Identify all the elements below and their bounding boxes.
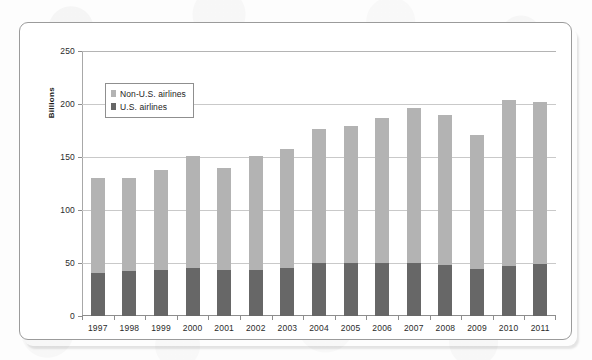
bar-segment-2006-non-us xyxy=(375,118,389,263)
bar-segment-2002-us xyxy=(249,270,263,316)
x-tick-label-1999: 1999 xyxy=(151,323,171,333)
y-tick-label-50: 50 xyxy=(65,258,75,268)
x-tick-mark-1997 xyxy=(82,316,83,320)
x-tick-mark-2002 xyxy=(240,316,241,320)
x-tick-label-2000: 2000 xyxy=(183,323,203,333)
x-tick-mark-2007 xyxy=(398,316,399,320)
x-tick-mark-1998 xyxy=(114,316,115,320)
bar-segment-2003-us xyxy=(280,268,294,316)
x-tick-mark-2003 xyxy=(272,316,273,320)
bar-segment-2011-non-us xyxy=(533,102,547,264)
x-tick-mark-2010 xyxy=(493,316,494,320)
bar-1998 xyxy=(122,178,136,316)
bar-2008 xyxy=(438,115,452,316)
bar-segment-2000-us xyxy=(186,268,200,316)
bar-segment-1997-us xyxy=(91,273,105,316)
x-tick-label-2005: 2005 xyxy=(341,323,361,333)
x-tick-label-2009: 2009 xyxy=(467,323,487,333)
bar-segment-1998-non-us xyxy=(122,178,136,271)
y-tick-mark-100 xyxy=(78,210,82,211)
bar-2002 xyxy=(249,156,263,316)
x-tick-label-2008: 2008 xyxy=(436,323,456,333)
bar-2007 xyxy=(407,108,421,316)
x-tick-mark-2006 xyxy=(366,316,367,320)
bar-segment-2005-non-us xyxy=(344,126,358,263)
bar-2001 xyxy=(217,168,231,316)
x-tick-mark-2009 xyxy=(461,316,462,320)
x-tick-label-2006: 2006 xyxy=(372,323,392,333)
x-tick-label-2001: 2001 xyxy=(214,323,234,333)
bar-segment-2011-us xyxy=(533,264,547,316)
x-tick-mark-2004 xyxy=(303,316,304,320)
x-tick-label-2003: 2003 xyxy=(278,323,298,333)
bar-segment-2000-non-us xyxy=(186,156,200,268)
legend-label-non-us-airlines: Non-U.S. airlines xyxy=(120,89,186,99)
bar-2004 xyxy=(312,129,326,316)
x-tick-label-2011: 2011 xyxy=(531,323,550,333)
bar-segment-2007-us xyxy=(407,263,421,316)
x-tick-mark-2000 xyxy=(177,316,178,320)
bar-1999 xyxy=(154,170,168,316)
x-tick-mark-1999 xyxy=(145,316,146,320)
legend-label-us-airlines: U.S. airlines xyxy=(120,102,167,112)
x-tick-mark-2001 xyxy=(208,316,209,320)
y-axis-title: Billions xyxy=(47,87,56,118)
bar-segment-1999-non-us xyxy=(154,170,168,271)
gridline-250 xyxy=(82,51,556,52)
bar-segment-2009-non-us xyxy=(470,135,484,270)
bar-2010 xyxy=(502,100,516,316)
x-tick-label-2007: 2007 xyxy=(404,323,424,333)
legend-swatch-icon-us xyxy=(111,103,116,110)
x-tick-label-2010: 2010 xyxy=(499,323,519,333)
bar-segment-2003-non-us xyxy=(280,149,294,269)
bar-segment-2007-non-us xyxy=(407,108,421,263)
bar-segment-2008-us xyxy=(438,265,452,316)
bar-2005 xyxy=(344,126,358,316)
bar-segment-2010-non-us xyxy=(502,100,516,266)
y-tick-mark-150 xyxy=(78,157,82,158)
legend-swatch-icon-non-us xyxy=(111,90,116,97)
chart-legend: Non-U.S. airlines U.S. airlines xyxy=(105,83,194,118)
bar-segment-2006-us xyxy=(375,263,389,316)
bar-segment-2010-us xyxy=(502,266,516,316)
bar-2009 xyxy=(470,135,484,316)
bar-segment-2004-us xyxy=(312,263,326,316)
bar-segment-2009-us xyxy=(470,269,484,316)
y-tick-label-0: 0 xyxy=(70,311,75,321)
bar-segment-2008-non-us xyxy=(438,115,452,266)
bar-1997 xyxy=(91,178,105,316)
y-tick-label-100: 100 xyxy=(60,205,75,215)
x-tick-label-2002: 2002 xyxy=(246,323,266,333)
y-tick-label-200: 200 xyxy=(60,99,75,109)
bar-segment-2001-non-us xyxy=(217,168,231,271)
bar-segment-2004-non-us xyxy=(312,129,326,263)
y-axis-line xyxy=(82,51,83,316)
x-tick-label-2004: 2004 xyxy=(309,323,329,333)
x-tick-label-1998: 1998 xyxy=(120,323,140,333)
y-tick-mark-250 xyxy=(78,51,82,52)
legend-item-non-us-airlines: Non-U.S. airlines xyxy=(111,87,186,100)
x-tick-label-1997: 1997 xyxy=(88,323,108,333)
bar-2003 xyxy=(280,149,294,316)
chart-container: Billions 050100150200250 199719981999200… xyxy=(19,22,572,340)
bar-segment-1998-us xyxy=(122,271,136,316)
x-tick-mark-2005 xyxy=(335,316,336,320)
x-tick-mark-2008 xyxy=(430,316,431,320)
bar-segment-1997-non-us xyxy=(91,178,105,272)
bar-segment-2001-us xyxy=(217,270,231,316)
y-tick-mark-50 xyxy=(78,263,82,264)
bar-2000 xyxy=(186,156,200,316)
y-tick-label-250: 250 xyxy=(60,46,75,56)
bar-2006 xyxy=(375,118,389,316)
bar-segment-2002-non-us xyxy=(249,156,263,270)
bar-2011 xyxy=(533,102,547,316)
y-tick-label-150: 150 xyxy=(60,152,75,162)
x-tick-mark-end xyxy=(555,316,556,320)
y-tick-mark-200 xyxy=(78,104,82,105)
x-tick-mark-2011 xyxy=(524,316,525,320)
bar-segment-2005-us xyxy=(344,263,358,316)
bar-segment-1999-us xyxy=(154,270,168,316)
legend-item-us-airlines: U.S. airlines xyxy=(111,100,186,113)
